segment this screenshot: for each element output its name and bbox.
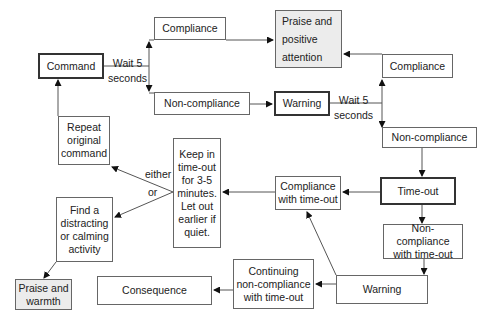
- node-command-label: Command: [47, 60, 95, 73]
- node-warning-top-label: Warning: [283, 97, 322, 110]
- node-noncompliance-left: Non-compliance: [154, 92, 250, 115]
- node-command: Command: [38, 53, 104, 79]
- node-praise-warmth-label: Praise and warmth: [18, 282, 68, 308]
- node-keep-in-timeout: Keep in time-out for 3-5 minutes. Let ou…: [173, 138, 221, 248]
- node-consequence: Consequence: [97, 276, 212, 305]
- node-noncompliance-right-label: Non-compliance: [392, 131, 468, 144]
- node-continuing-noncompliance: Continuing non-compliance with time-out: [233, 259, 314, 309]
- node-compliance-top-label: Compliance: [162, 22, 217, 35]
- edge-label-wait-1: Wait 5 seconds: [108, 56, 147, 86]
- node-find-activity: Find a distracting or calming activity: [56, 197, 113, 262]
- node-noncompliance-right: Non-compliance: [382, 127, 477, 148]
- node-praise-positive: Praise and positive attention: [275, 10, 342, 68]
- node-find-activity-label: Find a distracting or calming activity: [60, 204, 108, 256]
- node-noncompliance-timeout-label: Non-compliance with time-out: [386, 222, 460, 261]
- node-warning-bottom: Warning: [336, 275, 428, 304]
- node-timeout: Time-out: [380, 177, 456, 205]
- node-warning-bottom-label: Warning: [363, 283, 402, 296]
- node-timeout-label: Time-out: [397, 185, 438, 198]
- node-compliance-timeout-label: Compliance with time-out: [278, 180, 338, 206]
- edge-label-either: either: [145, 168, 171, 181]
- node-compliance-right-label: Compliance: [390, 60, 445, 73]
- edge-label-or: or: [148, 186, 157, 199]
- edge-label-wait-2: Wait 5 seconds: [334, 93, 373, 123]
- node-noncompliance-timeout: Non-compliance with time-out: [383, 224, 463, 259]
- node-compliance-top: Compliance: [154, 17, 226, 40]
- node-praise-positive-label: Praise and positive attention: [282, 12, 332, 66]
- node-repeat-command: Repeat original command: [58, 116, 110, 165]
- node-consequence-label: Consequence: [122, 284, 187, 297]
- node-praise-warmth: Praise and warmth: [15, 279, 72, 310]
- node-noncompliance-left-label: Non-compliance: [164, 97, 240, 110]
- node-repeat-command-label: Repeat original command: [61, 121, 107, 160]
- node-continuing-noncompliance-label: Continuing non-compliance with time-out: [236, 265, 310, 304]
- node-keep-in-timeout-label: Keep in time-out for 3-5 minutes. Let ou…: [177, 148, 217, 239]
- node-warning-top: Warning: [274, 91, 330, 116]
- node-compliance-right: Compliance: [382, 54, 453, 78]
- node-compliance-timeout: Compliance with time-out: [275, 176, 341, 210]
